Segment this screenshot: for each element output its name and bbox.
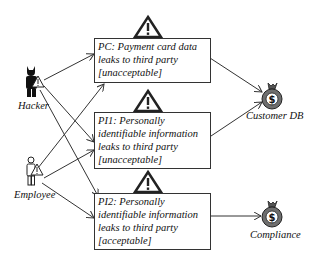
actor-label-hacker: Hacker	[18, 100, 49, 111]
risk-rating: [acceptable]	[98, 234, 207, 247]
employee-icon	[27, 157, 43, 185]
actor-label-employee: Employee	[14, 189, 55, 200]
warning-icon-pi2	[135, 172, 161, 192]
svg-text:$: $	[269, 212, 276, 223]
edge-hacker-pi1	[44, 86, 94, 142]
edge-hacker-pc	[44, 54, 94, 80]
risk-text-line: identifiable information	[98, 127, 207, 140]
risk-rating: [unacceptable]	[98, 153, 207, 166]
money-bag-icon-customer-db: $	[262, 83, 282, 109]
warning-icon-pc	[135, 17, 161, 37]
edge-employee-pi1	[44, 150, 94, 178]
risk-rating: [unacceptable]	[98, 66, 207, 79]
risk-text-line: leaks to third party	[98, 221, 207, 234]
risk-text-line: PI1: Personally	[98, 114, 207, 127]
risk-box-pc[interactable]: PC: Payment card data leaks to third par…	[94, 38, 211, 83]
edge-pc-customerdb	[210, 58, 262, 92]
risk-text-line: leaks to third party	[98, 53, 207, 66]
risk-text-line: identifiable information	[98, 208, 207, 221]
warning-icon-pi1	[135, 91, 161, 111]
risk-text-line: PI2: Personally	[98, 195, 207, 208]
asset-label-customer-db: Customer DB	[246, 110, 303, 121]
risk-diagram: $ $ Hacker Employee PC: Payment card dat…	[0, 0, 316, 259]
svg-text:$: $	[269, 94, 276, 105]
asset-label-compliance: Compliance	[250, 229, 301, 240]
risk-box-pi1[interactable]: PI1: Personally identifiable information…	[94, 112, 211, 169]
risk-text-line: PC: Payment card data	[98, 40, 207, 53]
risk-box-pi2[interactable]: PI2: Personally identifiable information…	[94, 193, 211, 250]
risk-text-line: leaks to third party	[98, 140, 207, 153]
money-bag-icon-compliance: $	[262, 201, 282, 227]
